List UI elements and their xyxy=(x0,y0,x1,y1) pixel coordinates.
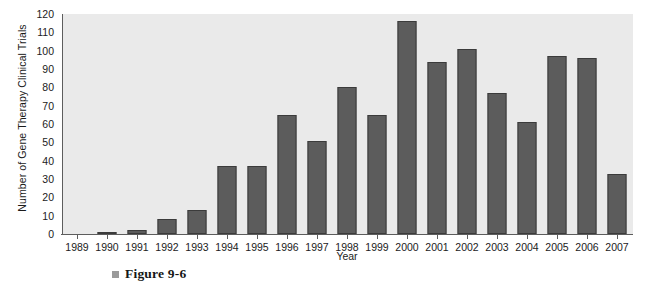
x-axis-tick-mark xyxy=(377,234,378,239)
x-axis-tick-mark xyxy=(527,234,528,239)
x-axis-tick-mark xyxy=(497,234,498,239)
bar[interactable] xyxy=(608,174,627,235)
bar[interactable] xyxy=(368,115,387,234)
y-axis-tick-label: 110 xyxy=(22,27,54,37)
bar[interactable] xyxy=(518,122,537,234)
x-axis-tick-mark xyxy=(77,234,78,239)
bar[interactable] xyxy=(578,58,597,234)
bar[interactable] xyxy=(308,141,327,235)
bar-slot xyxy=(362,14,392,234)
figure-caption-text: Figure 9-6 xyxy=(125,266,186,282)
y-axis-tick-label: 120 xyxy=(22,9,54,19)
y-axis-tick-label: 100 xyxy=(22,46,54,56)
bar[interactable] xyxy=(188,210,207,234)
y-axis-tick-label: 70 xyxy=(22,101,54,111)
y-axis-tick-label: 80 xyxy=(22,82,54,92)
square-bullet-icon xyxy=(112,271,119,278)
x-axis-tick-mark xyxy=(137,234,138,239)
y-axis-tick-label: 0 xyxy=(22,229,54,239)
x-axis-tick-mark xyxy=(347,234,348,239)
y-axis-tick-label: 10 xyxy=(22,211,54,221)
bar[interactable] xyxy=(398,21,417,234)
x-axis-title: Year xyxy=(62,250,632,262)
y-axis-tick-label: 20 xyxy=(22,192,54,202)
x-axis-tick-mark xyxy=(107,234,108,239)
bar-slot xyxy=(242,14,272,234)
bar-slot xyxy=(602,14,632,234)
y-axis-tick-labels: 0102030405060708090100110120 xyxy=(22,8,54,240)
bar[interactable] xyxy=(248,166,267,234)
x-axis-tick-mark xyxy=(557,234,558,239)
figure-container: Number of Gene Therapy Clinical Trials 0… xyxy=(0,0,648,286)
bar-slot xyxy=(92,14,122,234)
x-axis-tick-mark xyxy=(587,234,588,239)
x-axis-tick-mark xyxy=(437,234,438,239)
x-axis-tick-mark xyxy=(407,234,408,239)
figure-caption: Figure 9-6 xyxy=(112,266,186,282)
x-axis-tick-mark xyxy=(617,234,618,239)
bar-slot xyxy=(482,14,512,234)
bar-slot xyxy=(302,14,332,234)
bar-slot xyxy=(332,14,362,234)
y-axis-tick-label: 30 xyxy=(22,174,54,184)
bar[interactable] xyxy=(548,56,567,234)
bar-slot xyxy=(422,14,452,234)
x-axis-tick-mark xyxy=(227,234,228,239)
y-axis-tick-label: 40 xyxy=(22,156,54,166)
x-axis-tick-mark xyxy=(197,234,198,239)
bar[interactable] xyxy=(338,87,357,234)
bar-slot xyxy=(272,14,302,234)
x-axis-tick-mark xyxy=(467,234,468,239)
y-axis-tick-label: 60 xyxy=(22,119,54,129)
bar-series xyxy=(62,14,632,234)
x-axis-tick-mark xyxy=(287,234,288,239)
x-axis-tick-mark xyxy=(167,234,168,239)
x-axis-tick-mark xyxy=(257,234,258,239)
bar-slot xyxy=(392,14,422,234)
bar-slot xyxy=(122,14,152,234)
bar-slot xyxy=(152,14,182,234)
y-axis-tick-label: 50 xyxy=(22,137,54,147)
bar[interactable] xyxy=(218,166,237,234)
bar-slot xyxy=(512,14,542,234)
x-axis-tick-mark xyxy=(317,234,318,239)
bar[interactable] xyxy=(428,62,447,234)
bar-slot xyxy=(212,14,242,234)
bar-slot xyxy=(572,14,602,234)
bar[interactable] xyxy=(458,49,477,234)
bar[interactable] xyxy=(278,115,297,234)
bar-slot xyxy=(62,14,92,234)
bar-slot xyxy=(182,14,212,234)
y-axis-tick-label: 90 xyxy=(22,64,54,74)
bar[interactable] xyxy=(158,219,177,234)
bar-slot xyxy=(452,14,482,234)
bar[interactable] xyxy=(488,93,507,234)
bar-slot xyxy=(542,14,572,234)
